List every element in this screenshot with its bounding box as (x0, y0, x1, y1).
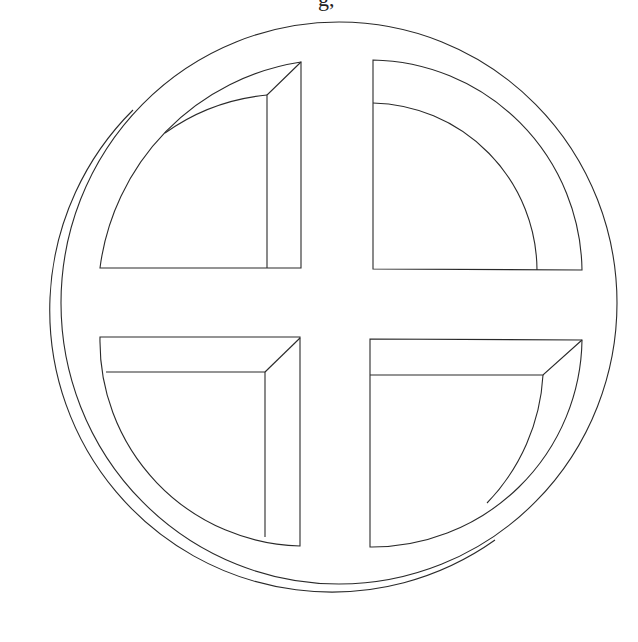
bottom-right-window (370, 339, 582, 547)
back-ring-arc (50, 110, 495, 592)
bottom-left-window (100, 337, 300, 546)
extruded-wheel-cross-diagram (0, 0, 638, 642)
top-left-window (100, 62, 301, 268)
front-ring-outer (61, 22, 617, 584)
top-right-window (373, 60, 582, 270)
